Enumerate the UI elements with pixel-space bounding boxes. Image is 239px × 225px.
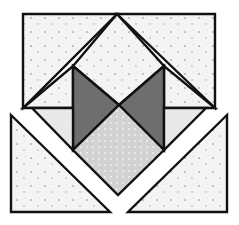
quilt-pieces — [11, 14, 227, 212]
quilt-block-diagram — [0, 0, 239, 225]
